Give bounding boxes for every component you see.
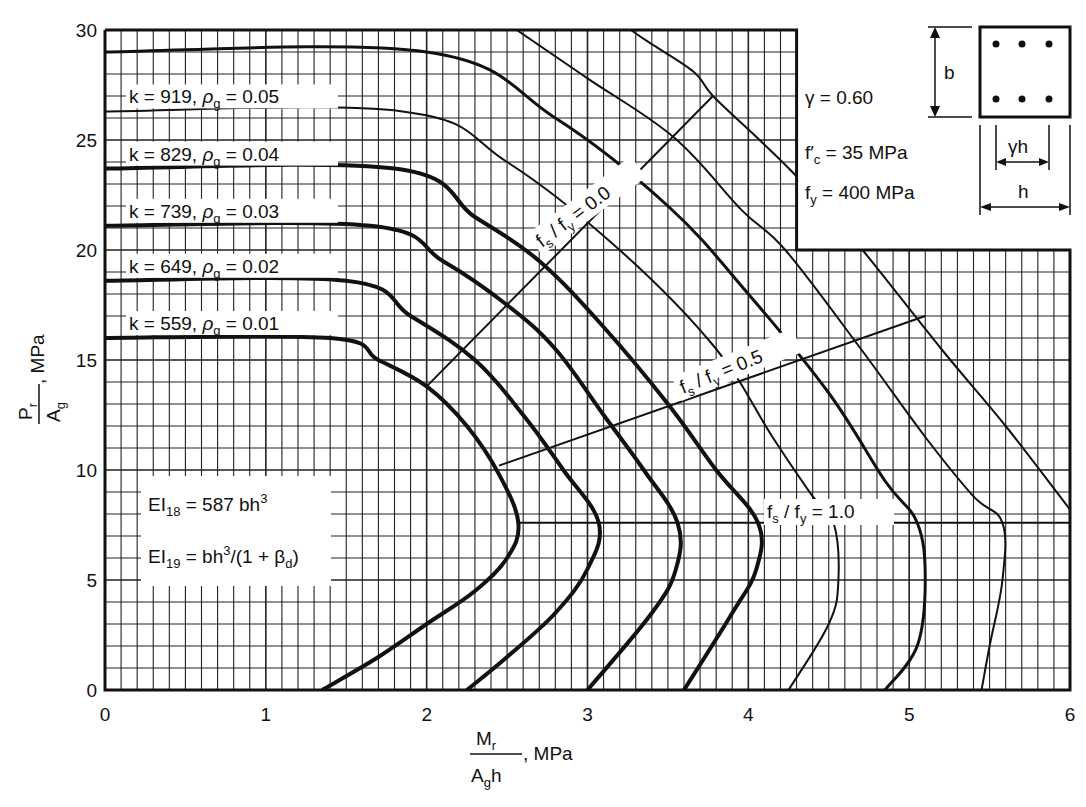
x-axis-ticks: 0123456 — [100, 704, 1076, 725]
svg-text:EI18 = 587 bh3: EI18 = 587 bh3 — [148, 491, 267, 519]
x-tick-label: 3 — [582, 704, 593, 725]
svg-text:, MPa: , MPa — [27, 334, 48, 384]
y-tick-label: 20 — [76, 240, 97, 261]
y-tick-label: 0 — [86, 680, 97, 701]
rebar-dots — [993, 41, 1053, 103]
interaction-diagram: k = 919, ρg = 0.05k = 829, ρg = 0.04k = … — [0, 0, 1086, 807]
column-section-diagram — [928, 27, 1070, 215]
svg-text:, MPa: , MPa — [523, 743, 573, 764]
svg-text:fy = 400 MPa: fy = 400 MPa — [805, 182, 915, 207]
y-tick-label: 10 — [76, 460, 97, 481]
interaction-curve — [105, 223, 681, 690]
x-tick-label: 6 — [1065, 704, 1076, 725]
y-axis-label: Pr Ag , MPa — [15, 334, 68, 424]
stiffness-note-box: EI18 = 587 bh3 EI19 = bh3/(1 + βd) — [141, 476, 331, 586]
x-axis-label: Mr Agh , MPa — [470, 728, 573, 790]
svg-text:γ = 0.60: γ = 0.60 — [805, 87, 873, 108]
x-tick-label: 1 — [261, 704, 272, 725]
y-tick-label: 30 — [76, 20, 97, 41]
dim-gamma-h-label: γh — [1008, 136, 1028, 157]
y-tick-label: 15 — [76, 350, 97, 371]
interaction-curve — [105, 165, 762, 690]
x-tick-label: 5 — [904, 704, 915, 725]
parameters-legend: γ = 0.60 f′c = 35 MPa fy = 400 MPa — [805, 87, 915, 207]
svg-text:Pr: Pr — [15, 402, 40, 420]
svg-text:fs / fy = 0.5: fs / fy = 0.5 — [677, 345, 767, 401]
svg-text:Mr: Mr — [476, 728, 497, 753]
x-tick-label: 2 — [421, 704, 432, 725]
y-tick-label: 25 — [76, 130, 97, 151]
dim-b-label: b — [944, 62, 955, 83]
x-tick-label: 0 — [100, 704, 111, 725]
svg-text:f′c = 35 MPa: f′c = 35 MPa — [805, 142, 908, 167]
series-labels: k = 919, ρg = 0.05k = 829, ρg = 0.04k = … — [126, 84, 338, 338]
svg-text:Agh: Agh — [471, 765, 502, 790]
svg-text:Ag: Ag — [43, 402, 68, 422]
x-tick-label: 4 — [743, 704, 754, 725]
fs-fy-1-label: fs / fy = 1.0 — [764, 499, 894, 526]
dim-h-label: h — [1018, 181, 1029, 202]
y-tick-label: 5 — [86, 570, 97, 591]
y-axis-ticks: 051015202530 — [76, 20, 97, 701]
